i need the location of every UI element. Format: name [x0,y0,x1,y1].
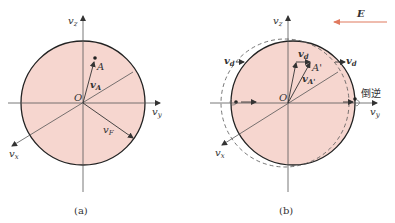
vz-label-b: vz [273,15,283,28]
caption-b: (b) [279,205,293,216]
point-A-label: A [96,61,104,72]
origin-label-b: O [279,92,287,103]
caption-a: (a) [74,205,88,216]
panel-b: vz vy vx O A' vd vd vd vA' E 倒逆 (b) [210,8,387,216]
vd-label-left: vd [224,55,235,68]
point-A [93,56,97,60]
vx-label-b: vx [215,147,225,160]
vy-label-a: vy [152,106,163,119]
origin-label-a: O [74,92,82,103]
vy-label-b: vy [370,106,381,119]
point-Aprime-label: A' [311,62,322,73]
right-point [353,97,357,101]
vd-label-right: vd [346,55,357,68]
field-E-label: E [356,8,365,19]
panel-a: vz vy vx O A vA vF (a) [8,15,163,216]
vx-label-a: vx [9,148,19,161]
fermi-sphere-figure: vz vy vx O A vA vF (a) vz vy [0,0,395,223]
vz-label-a: vz [68,15,78,28]
umklapp-label: 倒逆 [361,87,381,99]
